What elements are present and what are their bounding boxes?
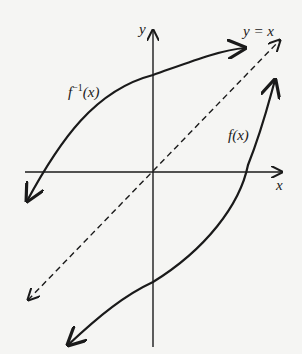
function-inverse-diagram: y x y = x f−1(x) f(x) bbox=[0, 0, 302, 354]
inverse-arg: (x) bbox=[83, 84, 100, 100]
y-axis-label: y bbox=[139, 22, 146, 37]
inverse-superscript: −1 bbox=[72, 82, 83, 93]
f-inverse-curve bbox=[27, 48, 245, 201]
function-label: f(x) bbox=[228, 128, 249, 143]
diagram-svg bbox=[0, 0, 302, 354]
x-axis-label: x bbox=[276, 178, 283, 193]
identity-line-label: y = x bbox=[243, 24, 274, 39]
identity-line bbox=[28, 40, 280, 300]
inverse-function-label: f−1(x) bbox=[68, 83, 99, 100]
f-curve bbox=[68, 80, 275, 345]
